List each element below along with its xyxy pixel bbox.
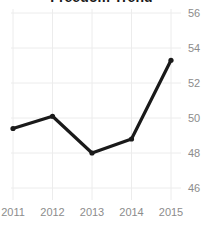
- data-point-marker: [50, 114, 55, 119]
- data-point-marker: [10, 126, 15, 131]
- x-axis-tick-label: 2014: [119, 206, 143, 218]
- horizontal-gridlines: [11, 13, 181, 188]
- plot-area: [0, 0, 203, 226]
- x-axis-tick-label: 2013: [80, 206, 104, 218]
- y-axis-tick-label: 52: [188, 77, 200, 89]
- data-point-marker: [129, 136, 134, 141]
- y-axis-tick-label: 56: [188, 7, 200, 19]
- y-axis-tick-label: 50: [188, 112, 200, 124]
- data-point-marker: [168, 58, 173, 63]
- x-axis-tick-label: 2015: [159, 206, 183, 218]
- y-axis-tick-label: 54: [188, 42, 200, 54]
- chart-container: Freedom Trend 464850525456 2011201220132…: [0, 0, 203, 226]
- y-axis-tick-label: 48: [188, 147, 200, 159]
- x-axis-tick-label: 2012: [40, 206, 64, 218]
- y-axis-tick-label: 46: [188, 182, 200, 194]
- x-axis-tick-label: 2011: [1, 206, 25, 218]
- line-chart-svg: [0, 0, 203, 226]
- data-point-marker: [89, 150, 94, 155]
